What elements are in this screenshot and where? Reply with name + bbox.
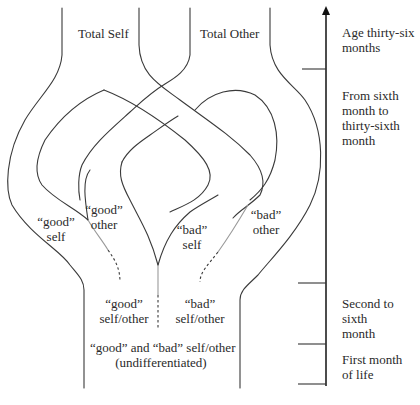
good-strand-outer — [37, 90, 104, 220]
center-v-left — [122, 116, 178, 162]
bad-other-light — [218, 205, 248, 252]
undifferentiated-label: “good” and “bad” self/other (undifferent… — [90, 340, 232, 370]
good-dashed — [108, 250, 120, 282]
bad-strand-loop — [195, 90, 277, 200]
center-v-path-left — [120, 162, 158, 265]
bad-self-label: “bad” self — [172, 222, 212, 252]
age-axis-arrow-icon — [322, 6, 330, 15]
good-self-label: “good” self — [36, 214, 76, 244]
good-self-other-label: “good” self/other — [96, 296, 152, 326]
age-label-first-month: First month of life — [342, 352, 402, 382]
bad-other-label: “bad” other — [246, 207, 286, 237]
bad-dashed — [200, 252, 218, 282]
age-label-6-to-36: From sixth month to thirty-sixth month — [342, 88, 400, 148]
good-other-label: “good” other — [84, 202, 124, 232]
total-self-label: Total Self — [78, 26, 129, 41]
outer-left-boundary — [8, 8, 84, 388]
age-label-2-to-6: Second to sixth month — [342, 296, 420, 341]
total-other-label: Total Other — [200, 26, 259, 41]
good-strand-top — [104, 90, 210, 212]
bad-self-other-label: “bad” self/other — [172, 296, 228, 326]
age-label-36-months: Age thirty-six months — [342, 25, 415, 55]
